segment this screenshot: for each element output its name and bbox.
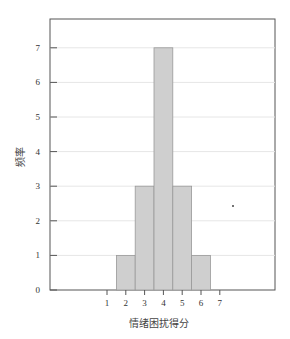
- y-tick-label: 0: [36, 285, 41, 295]
- y-axis-label: 频率: [14, 147, 26, 167]
- y-tick-label: 5: [36, 112, 41, 122]
- stray-dot: [232, 205, 234, 207]
- histogram-bar: [173, 186, 192, 290]
- histogram-bar: [116, 255, 135, 290]
- x-tick-label: 1: [105, 298, 110, 308]
- histogram-chart: 01234567 1234567 情绪困扰得分 频率: [0, 0, 290, 339]
- x-tick-label: 5: [180, 298, 185, 308]
- histogram-bar: [154, 48, 173, 290]
- x-tick-label: 3: [142, 298, 147, 308]
- x-axis: 1234567: [105, 290, 223, 308]
- y-tick-label: 1: [36, 250, 41, 260]
- y-tick-label: 6: [36, 77, 41, 87]
- y-tick-label: 3: [36, 181, 41, 191]
- y-tick-label: 4: [36, 147, 41, 157]
- histogram-bar: [192, 255, 211, 290]
- x-axis-label: 情绪困扰得分: [129, 317, 189, 329]
- x-tick-label: 7: [218, 298, 223, 308]
- x-tick-label: 6: [199, 298, 204, 308]
- x-tick-label: 4: [161, 298, 166, 308]
- histogram-bar: [135, 186, 154, 290]
- y-tick-label: 7: [36, 43, 41, 53]
- x-tick-label: 2: [124, 298, 129, 308]
- y-tick-label: 2: [36, 216, 41, 226]
